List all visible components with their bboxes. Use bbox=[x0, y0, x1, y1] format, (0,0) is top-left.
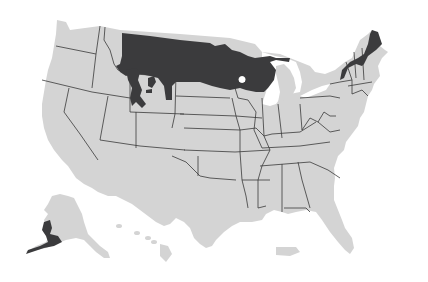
hawaii bbox=[116, 224, 172, 262]
us-range-map bbox=[0, 0, 428, 282]
puerto-rico bbox=[276, 247, 300, 256]
range-hole bbox=[239, 76, 246, 83]
